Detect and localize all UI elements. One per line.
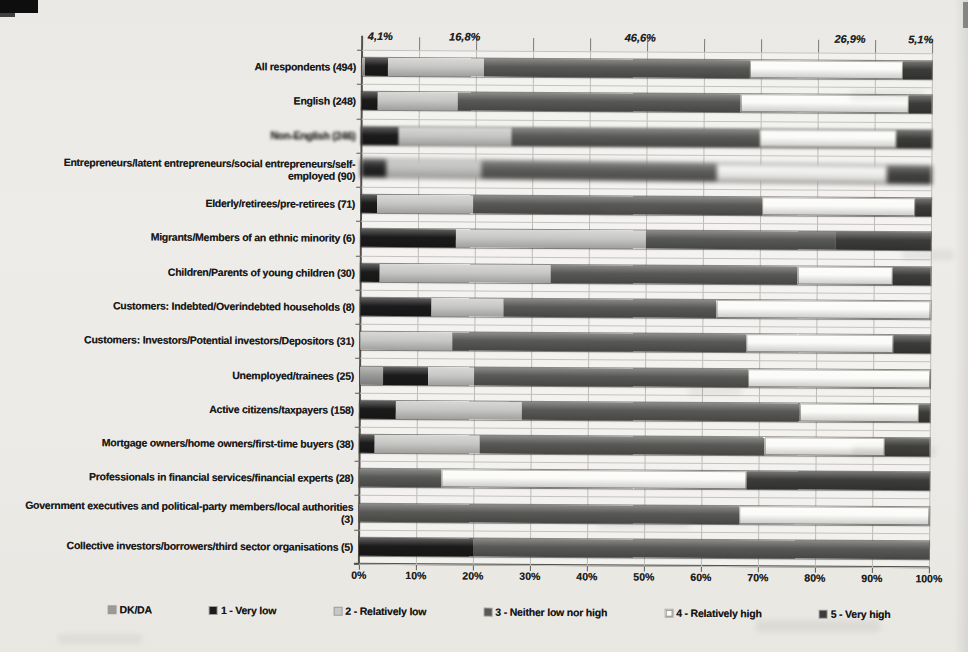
category-label: Non-English (246) xyxy=(19,116,355,152)
bar-segment-s4 xyxy=(441,470,747,490)
bar-segment-s3 xyxy=(646,231,836,250)
bar-row xyxy=(360,401,930,422)
bar-segment-s5 xyxy=(746,472,929,491)
y-axis-tick xyxy=(355,324,360,325)
category-label: Collective investors/borrowers/third sec… xyxy=(17,527,353,563)
legend-label: 1 - Very low xyxy=(221,604,276,616)
bar-segment-s1 xyxy=(360,298,431,316)
stacked-bar-chart: All respondents (494)English (248)Non-En… xyxy=(0,0,968,652)
legend-item: 2 - Relatively low xyxy=(334,605,426,618)
bar-row xyxy=(362,58,932,79)
bar-segment-s4 xyxy=(746,334,893,353)
bar-segment-s2 xyxy=(456,230,646,249)
x-tick-label: 0% xyxy=(337,569,381,581)
bar-segment-s2 xyxy=(396,401,523,420)
bar-segment-s2 xyxy=(399,127,513,146)
bar-segment-s4 xyxy=(749,60,902,79)
bar-row xyxy=(361,126,931,147)
bar-segment-s4 xyxy=(797,266,892,285)
legend-marker-s2 xyxy=(334,607,341,614)
annotation-label: 5,1% xyxy=(908,33,933,45)
bar-segment-s3 xyxy=(503,299,717,318)
labels-column: All respondents (494)English (248)Non-En… xyxy=(17,48,356,564)
legend-marker-s4 xyxy=(665,609,672,616)
bar-segment-s2 xyxy=(374,435,479,454)
bar-segment-s1 xyxy=(360,401,396,419)
y-axis-tick xyxy=(354,564,359,565)
bar-segment-s1 xyxy=(361,126,398,144)
y-axis-tick xyxy=(356,187,361,188)
plot-area: 0%10%20%30%40%50%60%70%80%90%100%4,1%16,… xyxy=(359,50,932,567)
bar-segment-s1 xyxy=(383,367,429,385)
category-label: Professionals in financial services/fina… xyxy=(17,459,353,495)
category-label: All respondents (494) xyxy=(20,48,356,84)
bar-segment-s5 xyxy=(919,404,930,422)
bar-segment-s3 xyxy=(359,469,441,487)
bar-segment-s4 xyxy=(717,300,931,319)
bar-segment-s4 xyxy=(762,197,915,216)
y-axis-tick xyxy=(355,392,360,393)
bar-segment-s3 xyxy=(482,160,716,181)
scan-artifact-edge xyxy=(963,2,968,28)
bar-segment-s4 xyxy=(800,403,919,422)
bar-segment-s3 xyxy=(550,265,797,285)
bar-segment-s1 xyxy=(361,159,386,177)
bar-segment-s2 xyxy=(388,58,484,77)
legend-marker-s5 xyxy=(820,610,827,617)
x-tick-label: 60% xyxy=(679,571,723,583)
bar-segment-s5 xyxy=(885,438,930,456)
legend-label: 4 - Relatively high xyxy=(676,607,762,620)
bar-segment-s2 xyxy=(386,159,481,178)
annotation-label: 46,6% xyxy=(625,31,656,43)
top-tick xyxy=(818,40,819,53)
bar-segment-s2 xyxy=(428,367,474,385)
bar-row xyxy=(361,264,931,285)
bar-segment-dkda xyxy=(360,366,383,384)
bar-row xyxy=(360,332,930,353)
y-axis-tick xyxy=(356,290,361,291)
legend-marker-s3 xyxy=(484,608,491,615)
bar-segment-s1 xyxy=(361,195,377,213)
bar-row xyxy=(361,195,931,216)
bar-segment-s3 xyxy=(458,93,741,113)
bar-segment-s5 xyxy=(915,198,931,216)
y-axis-tick xyxy=(356,221,361,222)
bar-row xyxy=(362,92,932,113)
chart-legend: DK/DA1 - Very low2 - Relatively low3 - N… xyxy=(109,603,891,620)
x-tick-label: 30% xyxy=(508,570,552,582)
x-tick-label: 40% xyxy=(565,570,609,582)
bar-segment-s3 xyxy=(359,503,739,523)
y-axis-tick xyxy=(355,427,360,428)
y-axis-tick xyxy=(354,530,359,531)
bar-segment-s3 xyxy=(474,367,748,387)
bar-segment-s1 xyxy=(361,229,456,248)
category-label: Mortgage owners/home owners/first-time b… xyxy=(18,425,354,461)
y-axis-tick xyxy=(356,255,361,256)
bar-segment-s1 xyxy=(360,435,375,453)
category-label: Unemployed/trainees (25) xyxy=(18,356,354,392)
annotation-label: 4,1% xyxy=(368,30,393,42)
bar-row xyxy=(359,469,929,490)
bar-row xyxy=(360,366,930,387)
bar-row xyxy=(360,298,930,319)
category-label: English (248) xyxy=(20,82,356,118)
bar-segment-s5 xyxy=(836,232,931,251)
category-label: Elderly/retirees/pre-retirees (71) xyxy=(19,185,355,221)
x-tick-label: 50% xyxy=(622,570,666,582)
legend-item: 3 - Neither low nor high xyxy=(484,606,607,619)
x-tick-label: 70% xyxy=(736,571,780,583)
category-label: Customers: Investors/Potential investors… xyxy=(18,322,354,358)
x-tick-label: 100% xyxy=(907,572,951,584)
bar-segment-s5 xyxy=(887,165,932,184)
category-label: Government executives and political-part… xyxy=(17,493,353,529)
bar-segment-s5 xyxy=(903,61,932,79)
legend-label: 5 - Very high xyxy=(831,608,891,620)
bar-row xyxy=(359,538,929,559)
top-tick xyxy=(875,40,876,53)
scan-artifact-corner xyxy=(0,0,38,13)
y-axis-tick xyxy=(355,358,360,359)
bar-segment-s2 xyxy=(378,92,458,110)
bar-row xyxy=(359,503,929,524)
legend-item: 4 - Relatively high xyxy=(665,607,762,620)
bar-segment-s3 xyxy=(512,127,760,147)
